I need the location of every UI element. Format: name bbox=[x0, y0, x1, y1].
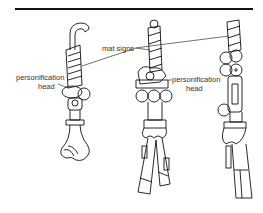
personification-head-middle-label-line1: personification bbox=[172, 76, 220, 84]
mat-signs-label: mat signs bbox=[102, 45, 134, 53]
left-scepter-drawing bbox=[61, 23, 90, 160]
personification-head-left-label-line2: head bbox=[38, 83, 55, 91]
right-scepter-drawing bbox=[218, 20, 252, 198]
middle-scepter-drawing bbox=[136, 20, 172, 194]
scepter-illustrations bbox=[0, 0, 263, 213]
personification-head-left-label-line1: personification bbox=[16, 74, 64, 82]
personification-head-middle-label-line2: head bbox=[186, 85, 203, 93]
